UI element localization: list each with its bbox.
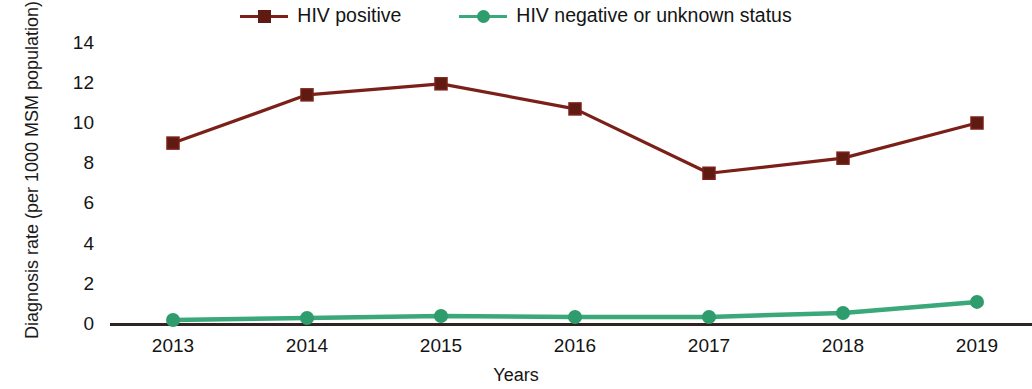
series-line: [173, 84, 977, 173]
series-layer: [0, 0, 1032, 389]
data-point-square: [167, 137, 179, 149]
x-tick-label: 2013: [152, 336, 194, 355]
x-tick-label: 2019: [956, 336, 998, 355]
x-tick-label: 2017: [688, 336, 730, 355]
data-point-square: [435, 78, 447, 90]
data-point-square: [301, 89, 313, 101]
x-tick-label: 2016: [554, 336, 596, 355]
data-point-square: [837, 152, 849, 164]
x-axis-title: Years: [0, 365, 1032, 386]
series-2: [166, 295, 984, 327]
series-1: [167, 78, 983, 179]
data-point-square: [569, 103, 581, 115]
data-point-circle: [166, 313, 180, 327]
line-chart: HIV positive HIV negative or unknown sta…: [0, 0, 1032, 389]
x-tick-label: 2014: [286, 336, 328, 355]
x-axis-tick-labels: 2013201420152016201720182019: [0, 336, 1032, 364]
plot-area: 02468101214 2013201420152016201720182019: [0, 0, 1032, 389]
data-point-circle: [434, 309, 448, 323]
data-point-square: [703, 167, 715, 179]
data-point-circle: [836, 306, 850, 320]
data-point-circle: [568, 310, 582, 324]
x-tick-label: 2018: [822, 336, 864, 355]
data-point-circle: [702, 310, 716, 324]
x-tick-label: 2015: [420, 336, 462, 355]
data-point-circle: [300, 311, 314, 325]
data-point-circle: [970, 295, 984, 309]
data-point-square: [971, 117, 983, 129]
